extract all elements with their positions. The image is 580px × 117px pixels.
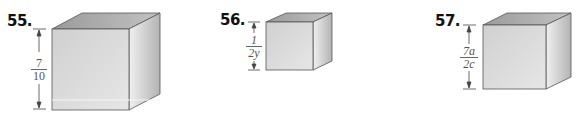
problem-number-55: 55. [7, 12, 32, 30]
cube-55 [52, 13, 160, 110]
cube-57 [483, 13, 571, 89]
problem-number-57: 57. [435, 12, 460, 30]
cube-figures [0, 0, 580, 117]
dimension-label-56: 1 2y [246, 34, 262, 59]
denominator: 10 [31, 70, 47, 82]
dimension-label-57: 7a 2c [460, 45, 478, 70]
problem-number-56: 56. [220, 11, 245, 29]
cube-56 [266, 13, 332, 70]
dimension-label-55: 7 10 [31, 57, 47, 82]
denominator: 2y [246, 47, 262, 59]
denominator: 2c [460, 58, 478, 70]
